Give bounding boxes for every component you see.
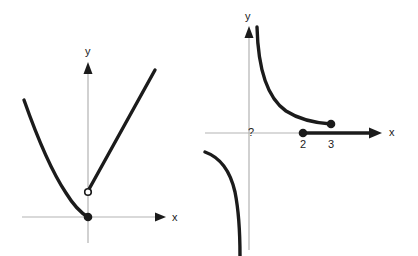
right-tick-label-2: 2 — [300, 139, 306, 150]
right-closed-point-curve-end — [327, 120, 336, 129]
right-hyperbola-upper-branch — [257, 27, 331, 124]
right-unknown-value-label: ? — [248, 127, 254, 138]
right-closed-point-at-2 — [299, 129, 308, 138]
right-hyperbola-lower-branch — [205, 152, 240, 256]
right-y-axis-arrowhead — [245, 26, 254, 38]
graph-figure-canvas: x y x y ? 2 3 — [0, 0, 418, 256]
right-tick-label-3: 3 — [328, 139, 334, 150]
right-y-axis — [245, 26, 254, 250]
right-y-axis-label: y — [245, 11, 251, 22]
right-ray-from-2 — [303, 128, 382, 139]
right-x-axis-arrowhead — [369, 128, 382, 139]
right-x-axis-label: x — [389, 127, 395, 138]
right-figure-svg — [0, 0, 418, 256]
